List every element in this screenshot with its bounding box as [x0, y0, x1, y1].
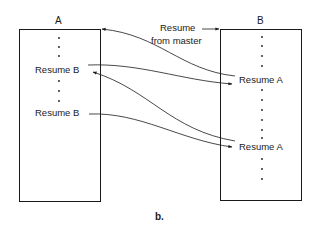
box-b-title: B — [257, 16, 264, 26]
resume-b-label-2: Resume B — [35, 108, 79, 118]
resume-a-label-2: Resume A — [239, 142, 283, 152]
resume-b-label-1: Resume B — [35, 65, 79, 75]
arrow-a-to-b-second — [89, 114, 232, 147]
ellipsis-dots-b — [261, 36, 263, 180]
figure-caption: b. — [155, 212, 164, 222]
arrow-a-to-b-first — [88, 65, 232, 84]
resume-a-label-1: Resume A — [239, 75, 283, 85]
resume-from-master-line2: from master — [151, 36, 202, 46]
box-a-title: A — [55, 16, 62, 26]
resume-from-master-line1: Resume — [160, 23, 195, 33]
coroutine-b-box — [221, 30, 302, 201]
arrow-b-to-a-second — [93, 72, 235, 141]
